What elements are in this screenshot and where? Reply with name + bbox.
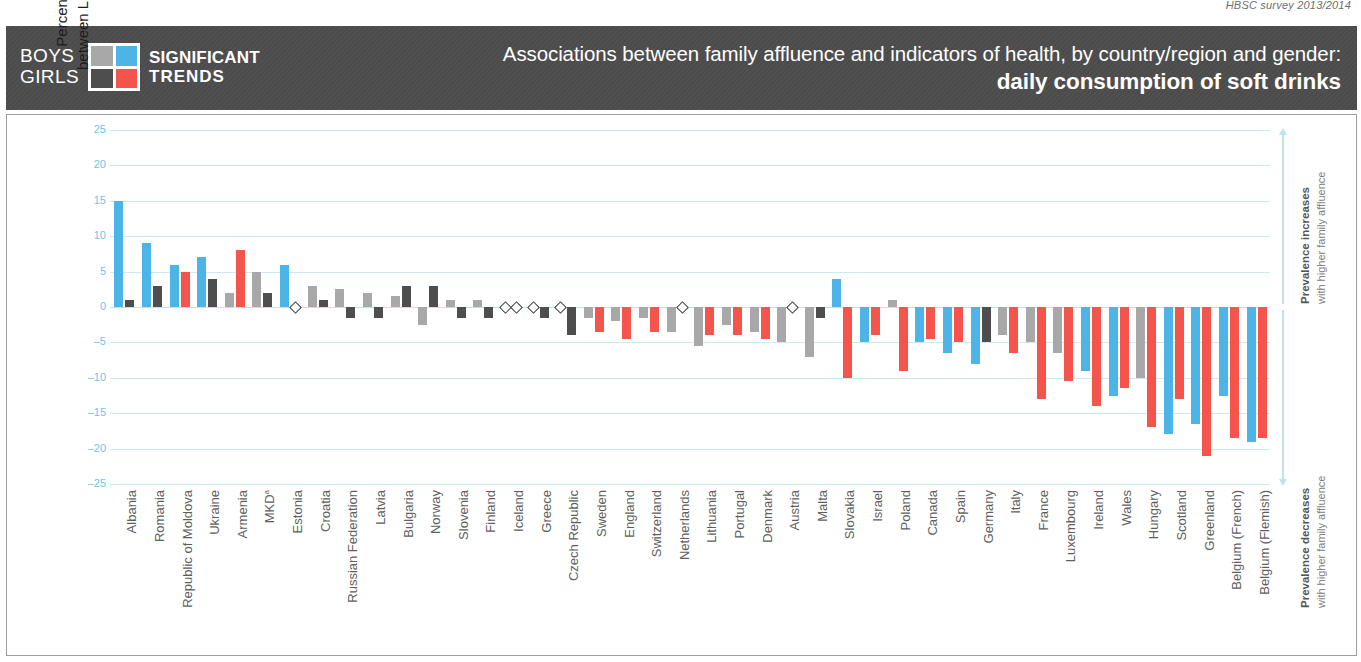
annotation-increase-rest: with higher family affluence [1314,172,1329,304]
bar-group [638,130,666,484]
y-axis-title: Percentage-point difference in prevalenc… [52,0,88,128]
bar-boys [584,307,593,318]
bar-boys [805,307,814,357]
bar-boys [1247,307,1256,442]
x-axis-label-belgium-flemish-: Belgium (Flemish) [1257,490,1272,595]
bar-group [831,130,859,484]
missing-value-diamond-girls [676,301,689,314]
x-axis-labels: AlbaniaRomaniaRepublic of MoldovaUkraine… [110,490,1270,658]
bar-boys [888,300,897,307]
x-axis-label-spain: Spain [953,490,968,523]
missing-value-diamond-girls [289,301,302,314]
bar-group [169,130,197,484]
missing-value-diamond-boys [527,301,540,314]
bar-group [914,130,942,484]
bar-girls [926,307,935,339]
x-axis-label-mkd: MKDa [262,490,277,523]
bar-group [1135,130,1163,484]
bar-girls [595,307,604,332]
x-axis-label-netherlands: Netherlands [677,490,692,560]
bar-girls [843,307,852,378]
legend-swatch-boys-significant [116,46,138,66]
bar-group [500,130,528,484]
bar-boys [363,293,372,307]
bar-boys [1219,307,1228,396]
bar-boys [832,279,841,307]
bar-boys [170,265,179,307]
bar-group [1080,130,1108,484]
bar-girls [1202,307,1211,456]
y-axis-tick-20: 20 [66,158,106,170]
bar-boys [446,300,455,307]
bar-boys [391,296,400,307]
chart-page: HBSC survey 2013/2014 BOYS GIRLS SIGNIFI… [0,0,1361,662]
bar-boys [308,286,317,307]
x-axis-label-denmark: Denmark [760,490,775,543]
legend-trend-line2: TRENDS [149,67,260,86]
x-axis-label-hungary: Hungary [1146,490,1161,539]
bar-boys [777,307,786,342]
bar-girls [871,307,880,335]
bar-group [279,130,307,484]
plot-area: 2520151050–5–10–15–20–25 [110,130,1270,484]
x-axis-label-portugal: Portugal [732,490,747,538]
y-axis-tick--20: –20 [66,442,106,454]
bar-girls [705,307,714,335]
arrow-up-icon [1279,128,1287,135]
bar-boys [1164,307,1173,434]
bar-boys [473,300,482,307]
x-axis-label-bulgaria: Bulgaria [401,490,416,538]
bar-boys [611,307,620,321]
bar-girls [484,307,493,318]
bar-girls [263,293,272,307]
bar-girls [733,307,742,335]
bar-girls [236,250,245,307]
x-axis-label-ireland: Ireland [1091,490,1106,530]
y-axis-tick--5: –5 [66,335,106,347]
bar-girls [899,307,908,371]
bar-group [472,130,500,484]
bar-girls [208,279,217,307]
bar-girls [1147,307,1156,427]
x-axis-label-ukraine: Ukraine [207,490,222,535]
bar-group [141,130,169,484]
x-axis-label-france: France [1036,490,1051,530]
bar-girls [1092,307,1101,406]
x-axis-label-belgium-french-: Belgium (French) [1229,490,1244,590]
bar-group [1108,130,1136,484]
title-line-1: Associations between family affluence an… [321,40,1341,67]
bar-girls [319,300,328,307]
x-axis-label-latvia: Latvia [373,490,388,525]
bar-girls [954,307,963,342]
missing-value-diamond-boys [554,301,567,314]
bar-girls [402,286,411,307]
bar-boys [1191,307,1200,424]
bar-girls [1064,307,1073,381]
bar-group [693,130,721,484]
y-axis-tick--15: –15 [66,406,106,418]
x-axis-label-wales: Wales [1119,490,1134,526]
bar-group [997,130,1025,484]
x-axis-label-england: England [622,490,637,538]
bar-boys [1109,307,1118,396]
bar-girls [761,307,770,339]
x-axis-label-germany: Germany [981,490,996,543]
bar-boys [860,307,869,342]
bar-group [749,130,777,484]
legend-trend-label: SIGNIFICANT TRENDS [149,48,260,86]
y-axis-tick-25: 25 [66,123,106,135]
legend-swatch-girls-nonsignificant [91,69,113,89]
title-line-2: daily consumption of soft drinks [321,67,1341,96]
y-axis-tick-10: 10 [66,229,106,241]
bar-group [1163,130,1191,484]
y-axis-title-line-1: Percentage-point difference in prevalenc… [52,0,73,128]
bar-girls [816,307,825,318]
bar-group [970,130,998,484]
bar-group [251,130,279,484]
legend-swatch-girls-significant [116,69,138,89]
bar-boys [667,307,676,332]
x-axis-label-sweden: Sweden [594,490,609,537]
legend-trend-line1: SIGNIFICANT [149,48,260,67]
y-axis-tick--25: –25 [66,477,106,489]
bar-boys [335,289,344,307]
